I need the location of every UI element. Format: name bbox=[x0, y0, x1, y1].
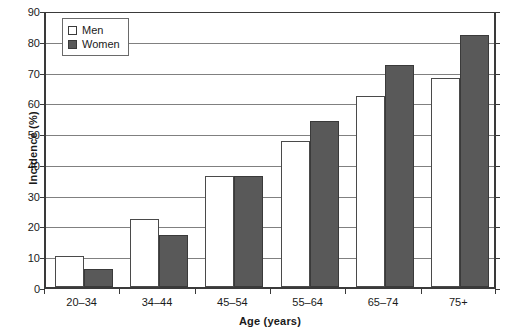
y-tick-label: 80 bbox=[0, 38, 40, 48]
y-tick-label: 30 bbox=[0, 192, 40, 202]
y-tick-label: 90 bbox=[0, 7, 40, 17]
x-axis-ticks bbox=[44, 289, 496, 295]
bar-men-65-74 bbox=[356, 96, 385, 287]
y-tick-label: 50 bbox=[0, 130, 40, 140]
y-tick-mark bbox=[40, 43, 45, 44]
bar-group bbox=[272, 12, 347, 287]
bar-men-45-54 bbox=[205, 176, 234, 287]
bar-group bbox=[197, 12, 272, 287]
x-axis-tick-labels: 20–3434–4445–5455–6465–7475+ bbox=[44, 296, 496, 312]
y-tick-label: 20 bbox=[0, 222, 40, 232]
bar-women-75+ bbox=[460, 35, 489, 287]
x-tick-label: 34–44 bbox=[142, 296, 173, 308]
legend-item-men: Men bbox=[68, 23, 120, 37]
x-tick-label: 75+ bbox=[449, 296, 468, 308]
x-tick-mark bbox=[270, 289, 271, 294]
y-tick-mark bbox=[40, 104, 45, 105]
y-tick-mark bbox=[40, 258, 45, 259]
bar-men-20-34 bbox=[55, 256, 84, 287]
y-tick-mark bbox=[40, 12, 45, 13]
bar-chart: Incidence (%) 0102030405060708090 20–343… bbox=[0, 0, 516, 335]
bar-women-55-64 bbox=[310, 121, 339, 287]
y-tick-label: 70 bbox=[0, 69, 40, 79]
y-tick-label: 0 bbox=[0, 284, 40, 294]
legend: Men Women bbox=[62, 18, 129, 56]
bar-women-34-44 bbox=[159, 235, 188, 287]
x-tick-mark bbox=[421, 289, 422, 294]
bar-women-65-74 bbox=[385, 65, 414, 287]
y-tick-mark bbox=[40, 135, 45, 136]
x-tick-label: 45–54 bbox=[217, 296, 248, 308]
bar-men-34-44 bbox=[130, 219, 159, 287]
legend-label-men: Men bbox=[82, 25, 103, 36]
y-tick-mark bbox=[40, 74, 45, 75]
bar-group bbox=[121, 12, 196, 287]
bar-women-45-54 bbox=[234, 176, 263, 287]
x-tick-label: 20–34 bbox=[66, 296, 97, 308]
y-tick-mark bbox=[40, 227, 45, 228]
x-tick-mark bbox=[44, 289, 45, 294]
legend-swatch-women-icon bbox=[68, 40, 77, 49]
y-axis-tick-labels: 0102030405060708090 bbox=[0, 12, 40, 289]
bar-women-20-34 bbox=[84, 269, 113, 287]
x-tick-mark bbox=[119, 289, 120, 294]
x-tick-mark bbox=[495, 289, 496, 294]
legend-item-women: Women bbox=[68, 37, 120, 51]
bar-group bbox=[423, 12, 498, 287]
legend-swatch-men-icon bbox=[68, 26, 77, 35]
y-tick-label: 10 bbox=[0, 253, 40, 263]
x-axis-title: Age (years) bbox=[44, 315, 496, 327]
y-tick-label: 40 bbox=[0, 161, 40, 171]
y-tick-mark bbox=[40, 166, 45, 167]
bar-men-55-64 bbox=[281, 141, 310, 287]
x-tick-mark bbox=[345, 289, 346, 294]
x-tick-mark bbox=[195, 289, 196, 294]
bar-group bbox=[347, 12, 422, 287]
y-tick-mark bbox=[40, 197, 45, 198]
y-tick-label: 60 bbox=[0, 99, 40, 109]
x-tick-label: 55–64 bbox=[292, 296, 323, 308]
x-tick-label: 65–74 bbox=[368, 296, 399, 308]
legend-label-women: Women bbox=[82, 39, 120, 50]
bar-men-75+ bbox=[431, 78, 460, 287]
